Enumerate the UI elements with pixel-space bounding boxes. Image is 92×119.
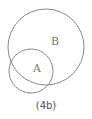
- circle-a: [9, 49, 53, 93]
- label-b: B: [51, 35, 59, 48]
- label-a: A: [32, 62, 42, 75]
- figure-caption: (4b): [0, 100, 92, 112]
- circle-b: [8, 9, 84, 85]
